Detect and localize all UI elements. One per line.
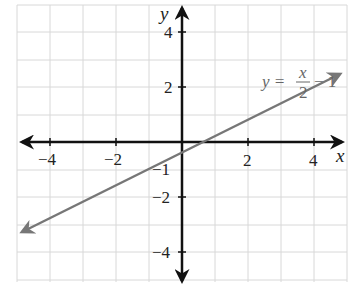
x-tick-label: −2 <box>104 150 122 169</box>
y-tick-label: −1 <box>152 160 170 179</box>
svg-text:y =: y = <box>260 72 285 91</box>
equation-label: y = <box>260 72 285 91</box>
equation-denominator: 2 <box>299 83 308 102</box>
y-tick-label: 4 <box>164 23 173 42</box>
x-tick-label: −4 <box>38 150 57 169</box>
equation-numerator: x <box>298 63 307 82</box>
x-tick-label: 2 <box>243 151 252 170</box>
coordinate-plane: −4 −2 2 4 4 2 −1 −2 −4 y x y = x 2 − 1 <box>0 0 357 292</box>
y-axis-label: y <box>158 3 169 24</box>
equation-constant: − 1 <box>314 72 336 91</box>
x-axis-label: x <box>335 145 345 166</box>
x-tick-label: 4 <box>309 151 318 170</box>
y-tick-label: −4 <box>152 243 171 262</box>
y-tick-label: 2 <box>164 78 173 97</box>
y-tick-label: −2 <box>152 188 170 207</box>
